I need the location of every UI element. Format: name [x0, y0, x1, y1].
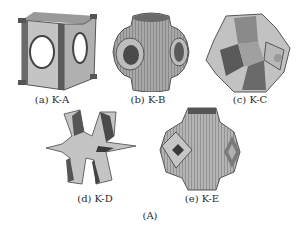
panel-d-label: (d) K-D [77, 193, 113, 204]
k-a-structure-icon [14, 10, 98, 92]
k-b-structure-icon [111, 12, 191, 92]
panel-e-label: (e) K-E [185, 193, 219, 204]
panel-b-label: (b) K-B [131, 94, 166, 105]
panel-a-label: (a) K-A [35, 94, 69, 105]
panel-a-image [14, 10, 98, 92]
k-c-structure-icon [204, 12, 292, 94]
panel-c-image [204, 12, 292, 94]
panel-d-image [44, 106, 140, 188]
panel-e-image [158, 106, 242, 192]
panel-c-label: (c) K-C [233, 94, 267, 105]
figure-caption: (A) [142, 210, 157, 221]
k-d-structure-icon [44, 106, 140, 188]
k-e-structure-icon [158, 106, 242, 192]
panel-b-image [111, 12, 191, 92]
